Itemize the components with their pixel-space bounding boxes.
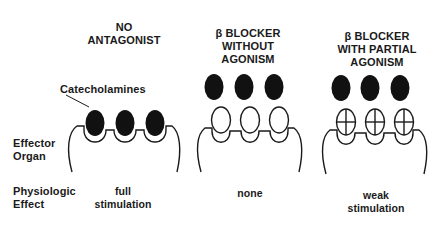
physiologic-effect-label: Physiologic Effect <box>13 185 76 211</box>
catecholamine-bound-2 <box>116 110 135 136</box>
catecholamine-free-4 <box>332 75 351 101</box>
panel-3-title: β BLOCKER WITH PARTIAL AGONISM <box>337 30 416 69</box>
catecholamine-free-1 <box>205 74 224 100</box>
panel-2-title: β BLOCKER WITHOUT AGONISM <box>215 27 280 66</box>
catecholamines-label: Catecholamines <box>60 83 146 96</box>
catecholamine-molecules-panel-1 <box>86 110 165 136</box>
partial-agonist-2 <box>366 109 385 135</box>
effector-organ-3 <box>323 109 427 174</box>
beta-blocker-3 <box>270 107 289 133</box>
catecholamine-bound-1 <box>86 110 105 136</box>
catecholamine-free-6 <box>391 75 410 101</box>
partial-agonist-1 <box>337 109 356 135</box>
catecholamine-free-5 <box>361 75 380 101</box>
effector-organ-label: Effector Organ <box>13 137 55 163</box>
panel-3-effect: weak stimulation <box>347 189 404 215</box>
effector-organ-2 <box>198 107 302 172</box>
panel-2-effect: none <box>237 187 262 200</box>
catecholamine-bound-3 <box>146 110 165 136</box>
catecholamine-free-3 <box>265 74 284 100</box>
panel-1-title: NO ANTAGONIST <box>88 21 161 47</box>
panel-1-effect: full stimulation <box>94 185 151 211</box>
beta-blocker-2 <box>241 107 260 133</box>
catecholamine-molecules-panel-2 <box>205 74 284 100</box>
catecholamines-pointer-line <box>66 95 89 107</box>
catecholamine-free-2 <box>235 74 254 100</box>
beta-blocker-1 <box>212 107 231 133</box>
catecholamine-molecules-panel-3 <box>332 75 410 101</box>
partial-agonist-3 <box>395 109 414 135</box>
